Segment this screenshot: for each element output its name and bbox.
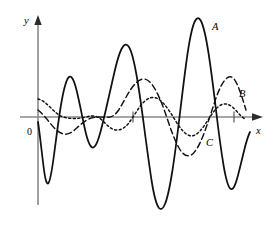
y-axis-label-wrap: y bbox=[24, 10, 29, 28]
y-axis-arrowhead bbox=[34, 15, 41, 25]
curve-label-b: B bbox=[239, 88, 245, 99]
curve-a-path bbox=[38, 18, 250, 209]
x-axis-label: x bbox=[256, 125, 261, 136]
y-axis-label: y bbox=[24, 15, 29, 26]
figure-container: y x 0 A B C bbox=[0, 0, 280, 229]
curve-label-a-wrap: A bbox=[212, 16, 218, 34]
curve-label-c-wrap: C bbox=[206, 132, 213, 150]
plot-canvas bbox=[0, 0, 280, 229]
x-axis-label-wrap: x bbox=[256, 120, 261, 138]
origin-label-wrap: 0 bbox=[27, 121, 32, 139]
curve-label-b-wrap: B bbox=[239, 83, 245, 101]
curve-label-c: C bbox=[206, 137, 213, 148]
origin-label: 0 bbox=[27, 126, 32, 137]
curve-label-a: A bbox=[212, 21, 218, 32]
